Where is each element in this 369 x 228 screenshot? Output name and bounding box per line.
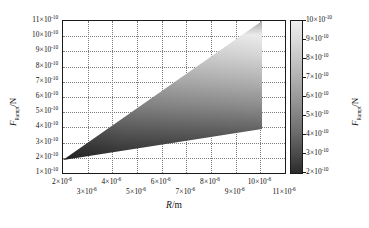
chart-figure: FRampt/N <box>0 0 369 228</box>
colorbar-tick-label: 4×10-10 <box>306 130 328 137</box>
y-tick-label: 5×10-10 <box>36 107 58 114</box>
x-tick-label: 6×10-6 <box>137 178 185 185</box>
colorbar-gradient <box>291 21 302 173</box>
y-tick-mark <box>62 82 63 83</box>
x-tick-label: 3×10-6 <box>63 188 111 195</box>
y-tick-label: 1×10-10 <box>36 168 58 175</box>
x-tick-label: 10×10-6 <box>235 178 283 185</box>
wedge-shape <box>63 21 286 174</box>
colorbar-tick-label: 6×10-10 <box>306 92 328 99</box>
x-tick-mark <box>88 173 89 174</box>
colorbar-tick-label: 8×10-10 <box>306 54 328 61</box>
x-tick-mark <box>211 173 212 174</box>
y-axis-title: FRampt/N <box>8 112 18 126</box>
x-tick-mark <box>162 173 163 174</box>
y-tick-label: 8×10-10 <box>36 62 58 69</box>
x-tick-label: 5×10-6 <box>112 188 160 195</box>
x-tick-label: 2×10-6 <box>38 178 86 185</box>
y-tick-label: 4×10-10 <box>36 122 58 129</box>
x-tick-label: 4×10-6 <box>87 178 135 185</box>
x-tick-mark <box>63 173 64 174</box>
x-tick-label: 9×10-6 <box>211 188 259 195</box>
x-tick-mark <box>186 173 187 174</box>
y-tick-label: 10×10-10 <box>32 31 58 38</box>
x-tick-mark <box>236 173 237 174</box>
x-tick-mark <box>137 173 138 174</box>
colorbar-tick-label: 3×10-10 <box>306 149 328 156</box>
plot-area <box>62 20 286 174</box>
x-tick-label: 8×10-6 <box>186 178 234 185</box>
y-tick-label: 9×10-10 <box>36 46 58 53</box>
x-tick-label: 7×10-6 <box>161 188 209 195</box>
y-tick-mark <box>62 67 63 68</box>
y-tick-mark <box>62 97 63 98</box>
y-tick-label: 2×10-10 <box>36 153 58 160</box>
x-tick-label: 11×10-6 <box>260 188 308 195</box>
colorbar-tick-label: 5×10-10 <box>306 111 328 118</box>
y-tick-label: 6×10-10 <box>36 92 58 99</box>
data-region <box>63 21 285 173</box>
y-tick-mark <box>62 127 63 128</box>
colorbar <box>290 20 303 174</box>
colorbar-title: FRampt/N <box>350 98 360 126</box>
y-tick-label: 3×10-10 <box>36 138 58 145</box>
x-tick-mark <box>285 173 286 174</box>
colorbar-tick-label: 7×10-10 <box>306 73 328 80</box>
x-tick-mark <box>112 173 113 174</box>
y-tick-mark <box>62 158 63 159</box>
y-tick-mark <box>62 143 63 144</box>
y-tick-mark <box>62 173 63 174</box>
colorbar-tick-label: 2×10-10 <box>306 168 328 175</box>
x-tick-mark <box>260 173 261 174</box>
y-tick-label: 11×10-10 <box>32 16 58 23</box>
y-tick-mark <box>62 36 63 37</box>
y-tick-mark <box>62 21 63 22</box>
x-axis-title: R/m <box>62 200 286 210</box>
colorbar-tick-label: 10×10-10 <box>306 16 332 23</box>
y-tick-label: 7×10-10 <box>36 77 58 84</box>
colorbar-tick-label: 9×10-10 <box>306 35 328 42</box>
y-tick-mark <box>62 51 63 52</box>
y-tick-mark <box>62 112 63 113</box>
